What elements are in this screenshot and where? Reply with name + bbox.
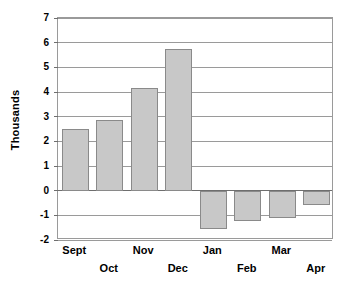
x-tick-label: Jan xyxy=(203,244,222,256)
y-tick-label: 6 xyxy=(43,36,49,47)
x-axis-tick-labels: SeptOctNovDecJanFebMarApr xyxy=(57,240,333,288)
y-tick-label: 5 xyxy=(43,61,49,72)
bars-layer xyxy=(58,18,332,238)
y-tick-label: -1 xyxy=(40,209,49,220)
y-tick-label: 7 xyxy=(43,12,49,23)
x-tick-label: Apr xyxy=(306,262,325,274)
x-tick-label: Nov xyxy=(133,244,154,256)
y-tick-label: -2 xyxy=(40,234,49,245)
x-tick-label: Feb xyxy=(237,262,257,274)
bar xyxy=(62,129,89,191)
plot-area xyxy=(57,17,333,239)
y-axis-tick-labels: 76543210-1-2 xyxy=(30,17,52,239)
y-tick-label: 1 xyxy=(43,160,49,171)
y-tick-label: 3 xyxy=(43,110,49,121)
bar xyxy=(165,49,192,191)
bar xyxy=(200,191,227,229)
x-tick-label: Mar xyxy=(271,244,291,256)
bar-chart: Thousands 76543210-1-2 SeptOctNovDecJanF… xyxy=(0,0,354,288)
x-tick-label: Oct xyxy=(100,262,118,274)
bar xyxy=(303,191,330,206)
y-tick-label: 4 xyxy=(43,86,49,97)
bar xyxy=(96,120,123,190)
y-axis-title: Thousands xyxy=(0,0,30,240)
y-axis-title-text: Thousands xyxy=(9,90,21,150)
x-tick-label: Dec xyxy=(168,262,188,274)
bar xyxy=(269,191,296,218)
bar xyxy=(131,88,158,190)
y-tick-label: 0 xyxy=(43,184,49,195)
y-tick-label: 2 xyxy=(43,135,49,146)
bar xyxy=(234,191,261,222)
x-tick-label: Sept xyxy=(62,244,86,256)
